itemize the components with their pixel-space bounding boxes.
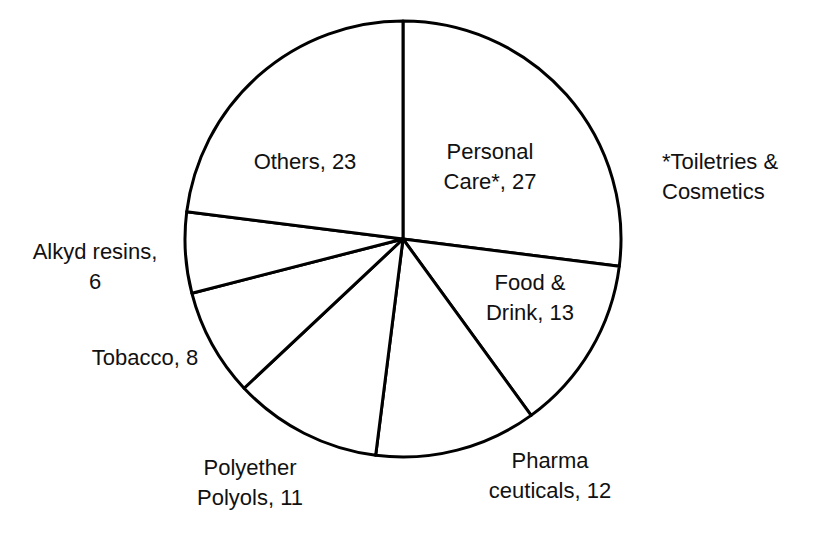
pie-slices	[185, 21, 621, 457]
label-others: Others, 23	[225, 147, 385, 177]
pie-slice	[187, 21, 403, 239]
label-food-drink: Food & Drink, 13	[455, 268, 605, 328]
label-personal-care: Personal Care*, 27	[420, 137, 560, 197]
label-polyether-polyols: Polyether Polyols, 11	[175, 453, 325, 513]
label-pharmaceuticals: Pharma ceuticals, 12	[470, 446, 630, 506]
label-tobacco: Tobacco, 8	[70, 343, 220, 373]
footnote-annotation: *Toiletries & Cosmetics	[662, 147, 812, 207]
label-alkyd-resins: Alkyd resins, 6	[20, 237, 170, 297]
